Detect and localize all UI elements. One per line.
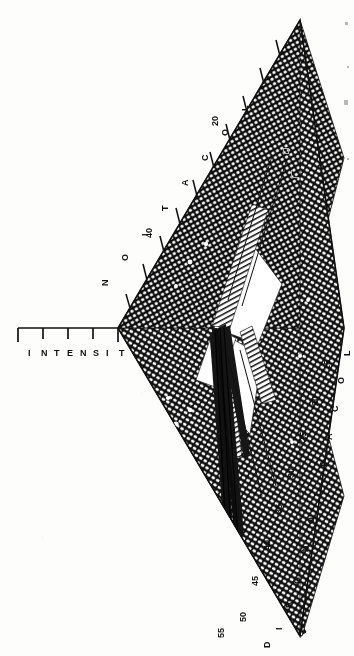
intensity-letter-6: I: [106, 348, 109, 358]
scan-speck-2: [347, 66, 349, 68]
grid-letter-I: I: [312, 493, 322, 496]
intensity-letter-7: T: [119, 348, 125, 358]
location-letter-4: T: [160, 205, 170, 211]
grid-tick-label-30: 30: [286, 468, 296, 478]
scan-speck-1: [345, 22, 348, 25]
intensity-letter-1: N: [41, 348, 48, 358]
grid-letter-L: L: [342, 350, 352, 356]
grid-letter-O: O: [336, 377, 346, 384]
grid-letter-I2: I: [274, 627, 284, 630]
location-tick-label-20: 20: [210, 116, 220, 126]
scan-corner-mark-1: [283, 148, 289, 154]
intensity-letter-4: N: [80, 348, 87, 358]
grid-letter-N: N: [300, 546, 310, 553]
grid-letter-C: C: [330, 405, 340, 412]
surface-plot-svg: I N T E N S I T Y: [0, 0, 354, 656]
grid-letter-R: R: [284, 601, 294, 608]
intensity-letter-3: E: [67, 348, 73, 358]
intensity-axis-label: I N T E N S I T Y: [28, 348, 138, 358]
grid-letter-A: A: [324, 433, 334, 440]
scan-corner-mark-2: [291, 170, 299, 178]
grid-letter-O2: O: [306, 517, 316, 524]
grid-tick-label-55: 55: [216, 628, 226, 638]
plot-area: I N T E N S I T Y: [0, 0, 354, 656]
grid-tick-label-50: 50: [238, 612, 248, 622]
scan-speck-3: [344, 100, 348, 105]
grid-letter-G: G: [292, 577, 302, 584]
location-letter-0: L: [240, 105, 250, 111]
intensity-letter-2: T: [54, 348, 60, 358]
location-letter-1: O: [220, 129, 230, 136]
grid-tick-label-40: 40: [262, 540, 272, 550]
mesh-surface: [118, 20, 344, 636]
location-letter-6: O: [120, 254, 130, 261]
surface-plot-figure: I N T E N S I T Y: [0, 0, 354, 656]
grid-tick-label-45: 45: [250, 576, 260, 586]
grid-tick-label-20: 20: [310, 396, 320, 406]
scan-speck-4: [347, 158, 349, 160]
rotated-plot-container: I N T E N S I T Y: [0, 0, 354, 656]
location-letter-2: C: [200, 154, 210, 161]
grid-tick-label-25: 25: [298, 432, 308, 442]
location-letter-3: A: [180, 179, 190, 186]
intensity-letter-0: I: [28, 348, 31, 358]
grid-letter-D: D: [262, 641, 272, 648]
intensity-letter-5: S: [93, 348, 99, 358]
grid-tick-label-35: 35: [274, 504, 284, 514]
location-letter-7: N: [100, 280, 110, 287]
grid-letter-T: T: [318, 462, 328, 468]
location-letter-5: I: [140, 233, 150, 236]
grid-tick-label-15: 15: [322, 360, 332, 370]
